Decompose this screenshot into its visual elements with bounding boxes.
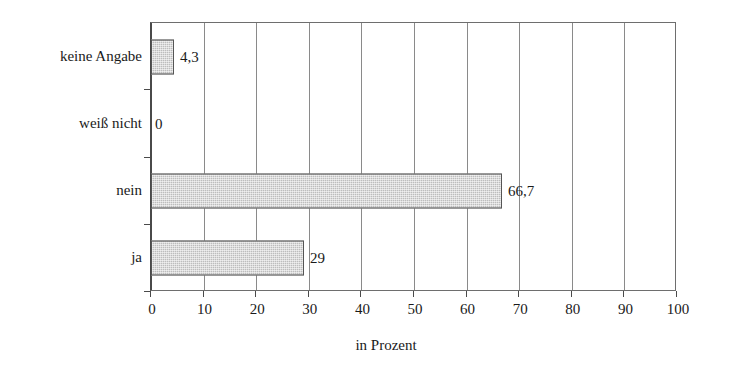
x-axis-tick-70: [518, 291, 519, 297]
x-axis-label-100: 100: [667, 302, 690, 317]
x-axis-label-70: 70: [513, 302, 528, 317]
x-axis-title-text: in Prozent: [315, 337, 416, 353]
category-label-weiss-nicht: weiß nicht: [0, 115, 142, 130]
x-axis-tick-0: [150, 291, 151, 297]
x-axis-tick-40: [360, 291, 361, 297]
bar-value-weiss-nicht: 0: [155, 116, 163, 131]
x-axis-tick-20: [255, 291, 256, 297]
x-axis-tick-30: [308, 291, 309, 297]
x-axis-title: in Prozent: [0, 338, 732, 353]
x-axis-label-50: 50: [408, 302, 423, 317]
bar-keine-angabe: [151, 39, 174, 74]
bar-ja: [151, 241, 304, 276]
x-axis-label-0: 0: [148, 302, 156, 317]
x-axis-label-60: 60: [460, 302, 475, 317]
category-label-keine-angabe: keine Angabe: [0, 48, 142, 63]
bar-band-nein: 66,7: [151, 158, 675, 225]
plot-area: 4,3 0 66,7 29: [150, 22, 676, 291]
bar-chart: keine Angabe weiß nicht nein ja 4,3 0: [0, 0, 732, 370]
x-axis-label-10: 10: [197, 302, 212, 317]
bar-nein: [151, 174, 502, 209]
x-axis-label-40: 40: [355, 302, 370, 317]
x-axis-tick-90: [623, 291, 624, 297]
x-axis-label-80: 80: [565, 302, 580, 317]
x-axis-label-90: 90: [618, 302, 633, 317]
bar-band-ja: 29: [151, 225, 675, 292]
x-axis-tick-50: [413, 291, 414, 297]
category-label-ja: ja: [0, 250, 142, 265]
bar-band-keine-angabe: 4,3: [151, 23, 675, 90]
x-axis-label-30: 30: [302, 302, 317, 317]
bar-value-keine-angabe: 4,3: [180, 49, 199, 64]
bar-band-weiss-nicht: 0: [151, 90, 675, 157]
bar-value-nein: 66,7: [508, 184, 534, 199]
x-axis-tick-80: [571, 291, 572, 297]
x-axis-tick-100: [676, 291, 677, 297]
x-axis-label-20: 20: [250, 302, 265, 317]
category-axis-labels: keine Angabe weiß nicht nein ja: [0, 22, 142, 291]
x-axis-tick-10: [203, 291, 204, 297]
x-axis-tick-60: [466, 291, 467, 297]
bar-value-ja: 29: [310, 251, 325, 266]
category-label-nein: nein: [0, 183, 142, 198]
